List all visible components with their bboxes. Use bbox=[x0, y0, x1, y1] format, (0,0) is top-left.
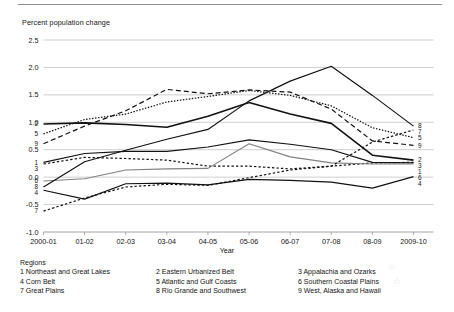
watermark-mark-1: ☆ bbox=[388, 262, 396, 272]
x-axis-tick-label: 05-06 bbox=[240, 237, 258, 246]
legend-item-1: 1 Northeast and Great Lakes bbox=[20, 267, 156, 276]
legend-item-5: 5 Atlantic and Gulf Coasts bbox=[156, 277, 298, 286]
x-axis-tick-label: 06-07 bbox=[281, 237, 299, 246]
series-end-label-5: 5 bbox=[418, 134, 422, 141]
legend-item-4: 4 Corn Belt bbox=[20, 277, 156, 286]
x-axis-tick-label: 01-02 bbox=[75, 237, 93, 246]
series-line-5 bbox=[44, 90, 414, 137]
y-axis-tick-label: 1.5 bbox=[29, 90, 39, 99]
series-end-label-3: 3 bbox=[34, 165, 38, 172]
series-end-label-9: 9 bbox=[34, 140, 38, 147]
legend-title: Regions bbox=[20, 258, 440, 267]
x-axis-tick-label: 02-03 bbox=[117, 237, 135, 246]
x-axis-tick-label: 04-05 bbox=[199, 237, 217, 246]
legend-item-3: 3 Appalachia and Ozarks bbox=[298, 267, 440, 276]
legend-item-7: 7 Great Plains bbox=[20, 286, 156, 295]
series-end-label-4: 4 bbox=[418, 180, 422, 187]
x-axis-tick-label: 08-09 bbox=[363, 237, 381, 246]
watermark-mark-2: ☆ bbox=[393, 276, 401, 286]
y-axis-tick-label: -1.0 bbox=[26, 228, 38, 237]
legend-item-2: 2 Eastern Urbanized Belt bbox=[156, 267, 298, 276]
legend: Regions 1 Northeast and Great Lakes2 Eas… bbox=[20, 258, 440, 296]
x-axis-tick-label: 07-08 bbox=[322, 237, 340, 246]
y-axis-tick-label: 2.0 bbox=[29, 63, 39, 72]
series-line-8 bbox=[44, 66, 414, 187]
x-axis-ticks: 2000-0101-0202-0303-0404-0505-0606-0707-… bbox=[30, 232, 426, 246]
x-axis-tick-label: 2000-01 bbox=[30, 237, 56, 246]
series-line-2 bbox=[44, 103, 414, 161]
series-line-6 bbox=[44, 144, 414, 181]
series-end-label-4: 4 bbox=[34, 189, 38, 196]
chart-figure: Percent population change 2.52.01.51.00.… bbox=[0, 0, 454, 312]
x-axis-tick-label: 03-04 bbox=[158, 237, 176, 246]
legend-item-8: 8 Rio Grande and Southwest bbox=[156, 286, 298, 295]
legend-item-9: 9 West, Alaska and Hawaii bbox=[298, 286, 440, 295]
series-end-label-2: 2 bbox=[34, 120, 38, 127]
legend-items: 1 Northeast and Great Lakes2 Eastern Urb… bbox=[20, 267, 440, 295]
series-line-7 bbox=[44, 130, 414, 211]
legend-item-6: 6 Southern Coastal Plains bbox=[298, 277, 440, 286]
data-series-group bbox=[44, 66, 414, 211]
x-axis-title: Year bbox=[0, 246, 454, 255]
series-end-label-5: 5 bbox=[34, 130, 38, 137]
y-axis-tick-label: 2.5 bbox=[29, 36, 39, 45]
series-end-label-7: 7 bbox=[34, 207, 38, 214]
series-line-4 bbox=[44, 177, 414, 200]
x-axis-tick-label: 2009-10 bbox=[400, 237, 426, 246]
series-end-label-9: 9 bbox=[418, 142, 422, 149]
